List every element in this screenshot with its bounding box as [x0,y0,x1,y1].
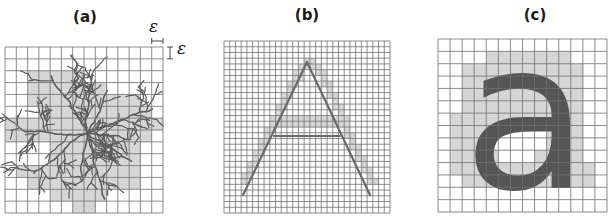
epsilon-dimension-markers [0,0,612,221]
